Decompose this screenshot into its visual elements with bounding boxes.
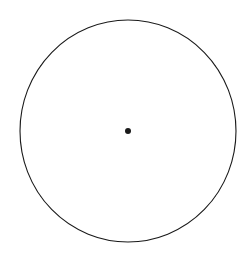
- sector-diagram: [0, 0, 252, 253]
- center-hub: [125, 128, 131, 134]
- figure-root: [0, 0, 252, 253]
